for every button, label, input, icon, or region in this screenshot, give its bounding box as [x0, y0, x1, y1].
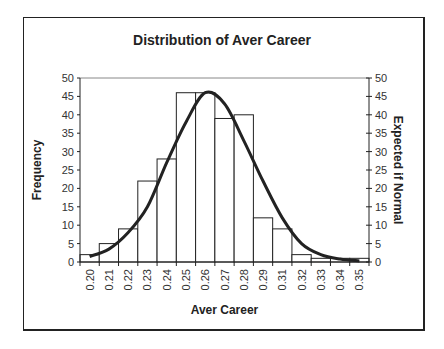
x-tick-label: 0.35	[353, 269, 365, 290]
y-tick-label-left: 5	[68, 238, 74, 250]
x-tick-label: 0.21	[103, 269, 115, 290]
y-tick-label-right: 25	[375, 164, 387, 176]
histogram-bar	[234, 115, 253, 262]
histogram-bar	[157, 159, 176, 262]
histogram-bar	[292, 255, 311, 262]
x-tick-label: 0.22	[122, 269, 134, 290]
x-tick-label: 0.33	[315, 269, 327, 290]
y-tick-label-right: 35	[375, 127, 387, 139]
y-tick-label-left: 35	[62, 127, 74, 139]
y-tick-label-right: 20	[375, 182, 387, 194]
y-tick-label-right: 30	[375, 146, 387, 158]
histogram-bar	[215, 118, 234, 262]
y-tick-label-right: 40	[375, 109, 387, 121]
x-tick-label: 0.24	[161, 269, 173, 290]
y-tick-label-left: 10	[62, 219, 74, 231]
y-tick-label-right: 15	[375, 201, 387, 213]
x-tick-label: 0.34	[334, 269, 346, 290]
y-tick-label-left: 50	[62, 72, 74, 84]
x-tick-label: 0.25	[180, 269, 192, 290]
y-tick-label-right: 0	[375, 256, 381, 268]
y-tick-label-left: 15	[62, 201, 74, 213]
histogram-bar	[311, 258, 330, 262]
chart-plot: 0055101015152020252530303535404045455050…	[0, 0, 444, 349]
x-tick-label: 0.32	[296, 269, 308, 290]
histogram-bar	[196, 93, 215, 262]
x-tick-label: 0.31	[276, 269, 288, 290]
y-tick-label-left: 40	[62, 109, 74, 121]
y-tick-label-left: 25	[62, 164, 74, 176]
histogram-bar	[253, 218, 272, 262]
x-tick-label: 0.27	[219, 269, 231, 290]
y-tick-label-right: 5	[375, 238, 381, 250]
x-tick-label: 0.23	[141, 269, 153, 290]
x-tick-label: 0.26	[199, 269, 211, 290]
y-tick-label-right: 50	[375, 72, 387, 84]
y-tick-label-left: 30	[62, 146, 74, 158]
histogram-bar	[176, 93, 195, 262]
y-tick-label-right: 45	[375, 90, 387, 102]
x-tick-label: 0.28	[238, 269, 250, 290]
y-tick-label-left: 45	[62, 90, 74, 102]
y-tick-label-left: 0	[68, 256, 74, 268]
x-tick-label: 0.29	[257, 269, 269, 290]
y-tick-label-left: 20	[62, 182, 74, 194]
histogram-bar	[273, 229, 292, 262]
y-tick-label-right: 10	[375, 219, 387, 231]
x-tick-label: 0.20	[84, 269, 96, 290]
